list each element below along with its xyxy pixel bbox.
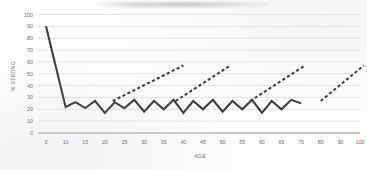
data-series-dashed-trend-2: [176, 65, 231, 101]
x-axis-tick-label: 10: [63, 139, 69, 145]
y-axis-tick-label: 50: [27, 71, 33, 77]
data-series-dashed-trend-4: [321, 65, 364, 101]
x-axis-tick-label: 20: [102, 139, 108, 145]
x-axis-tick-label: 65: [279, 139, 285, 145]
x-axis-title: AGE: [194, 153, 206, 159]
x-axis-tick-label: 15: [82, 139, 88, 145]
gridline-group: [38, 15, 360, 134]
data-series-group: [46, 26, 364, 113]
x-axis-tick-label: 80: [318, 139, 324, 145]
x-axis-tick-label: 5: [45, 139, 48, 145]
y-axis-tick-label: 70: [27, 47, 33, 53]
data-series-dashed-trend-3: [250, 65, 305, 101]
y-axis-title: % STRONG: [10, 61, 16, 91]
x-axis-tick-label: 60: [259, 139, 265, 145]
x-axis-tick-label: 70: [298, 139, 304, 145]
y-axis-tick-label: 40: [27, 83, 33, 89]
y-axis-tick-label: 90: [27, 23, 33, 29]
data-series-dashed-trend-1: [113, 65, 184, 101]
y-axis-tick-label: 10: [27, 118, 33, 124]
x-axis-tick-label: 40: [180, 139, 186, 145]
y-axis-tick-label: 0: [30, 130, 33, 136]
x-axis-tick-label: 50: [220, 139, 226, 145]
y-axis-tick-label: 30: [27, 94, 33, 100]
y-axis-tick-labels: 0102030405060708090100: [24, 12, 33, 137]
chart-figure: 0102030405060708090100 51015202530354045…: [0, 0, 367, 170]
x-axis-tick-label: 100: [356, 139, 365, 145]
x-axis-tick-label: 55: [239, 139, 245, 145]
x-axis-tick-label: 35: [161, 139, 167, 145]
x-axis-tick-label: 45: [200, 139, 206, 145]
y-axis-tick-label: 60: [27, 59, 33, 65]
y-axis-tick-label: 80: [27, 35, 33, 41]
x-axis-tick-label: 25: [122, 139, 128, 145]
x-axis-tick-label: 30: [141, 139, 147, 145]
x-axis-tick-labels: 5101520253035404550556065708090100: [45, 139, 365, 145]
x-axis-tick-label: 90: [337, 139, 343, 145]
y-axis-tick-label: 20: [27, 106, 33, 112]
y-axis-tick-label: 100: [24, 12, 33, 18]
line-chart-plot: 0102030405060708090100 51015202530354045…: [0, 0, 367, 170]
